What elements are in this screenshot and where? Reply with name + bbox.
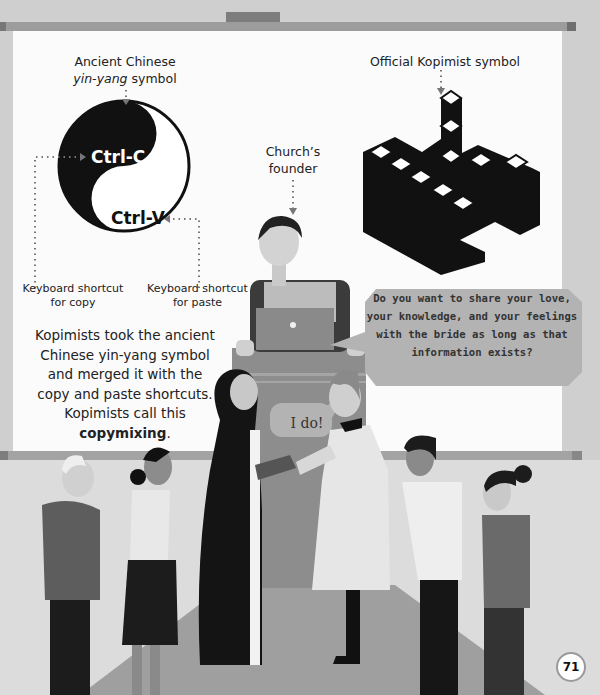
groom-reply-text: I do! (282, 415, 332, 431)
explanation-term-line: copymixing. (30, 424, 220, 444)
bar-cap-left (0, 451, 8, 460)
explanation-line: Kopimists took the ancient (30, 326, 220, 346)
laptop (256, 308, 334, 350)
founder-question-text: Do you want to share your love, your kno… (366, 289, 578, 361)
screen-hanger (226, 12, 280, 22)
copymixing-term: copymixing (79, 425, 166, 441)
copy-shortcut-caption: Keyboard shortcut for copy (8, 282, 138, 310)
question-line: with the bride as long as that (366, 325, 578, 343)
page-number-badge: 71 (556, 652, 586, 682)
question-line: your knowledge, and your feelings (366, 307, 578, 325)
yin-yang-caption-line1: Ancient Chinese (50, 53, 200, 70)
founder-caption: Church’s founder (250, 143, 336, 177)
paste-caption-line1: Keyboard shortcut (130, 282, 265, 296)
ctrl-c-label: Ctrl-C (91, 147, 145, 167)
paste-caption-line2: for paste (130, 296, 265, 310)
explanation-line: Chinese yin-yang symbol (30, 346, 220, 366)
question-line: information exists? (366, 343, 578, 361)
bar-cap-right (572, 451, 582, 460)
copymixing-explanation: Kopimists took the ancient Chinese yin-y… (30, 326, 220, 443)
ctrl-v-label: Ctrl-V (111, 208, 165, 228)
screen-top-roller (0, 22, 575, 31)
roller-cap-left (0, 22, 6, 31)
copy-caption-line2: for copy (8, 296, 138, 310)
paste-shortcut-caption: Keyboard shortcut for paste (130, 282, 265, 310)
yin-yang-caption-rest: symbol (128, 71, 177, 86)
founder-caption-line1: Church’s (250, 143, 336, 160)
explanation-suffix: . (166, 425, 170, 441)
explanation-line: copy and paste shortcuts. (30, 385, 220, 405)
yin-yang-caption: Ancient Chinese yin-yang symbol (50, 53, 200, 87)
yin-yang-caption-italic: yin-yang (73, 71, 127, 86)
roller-cap-right (567, 22, 576, 31)
kopimist-symbol-caption: Official Kopimist symbol (365, 53, 525, 70)
question-line: Do you want to share your love, (366, 289, 578, 307)
explanation-line: and merged it with the (30, 365, 220, 385)
copy-caption-line1: Keyboard shortcut (8, 282, 138, 296)
yin-yang-caption-line2: yin-yang symbol (50, 70, 200, 87)
explanation-line: Kopimists call this (30, 404, 220, 424)
founder-caption-line2: founder (250, 160, 336, 177)
